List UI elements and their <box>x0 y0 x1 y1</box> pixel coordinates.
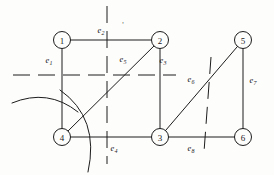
edge-label-subscript-e7: 7 <box>253 80 256 86</box>
graph-node-label-2: 2 <box>158 36 163 45</box>
graph-edge-e5 <box>68 46 154 131</box>
cut-line-layer <box>13 6 211 164</box>
edge-label-e1: e1 <box>46 56 53 65</box>
node-layer <box>54 32 252 146</box>
edge-label-e7: e7 <box>250 76 257 85</box>
edge-label-e5: e5 <box>120 55 127 64</box>
graph-node-label-6: 6 <box>241 133 246 142</box>
edge-label-e6: e6 <box>188 75 195 84</box>
cut-slanted <box>204 57 211 152</box>
arc-upper <box>12 97 78 112</box>
graph-node-label-4: 4 <box>60 133 65 142</box>
edge-label-e3: e3 <box>160 56 167 65</box>
edge-label-subscript-e1: 1 <box>49 60 52 66</box>
edge-layer <box>62 40 243 137</box>
edge-label-e8: e8 <box>188 144 195 153</box>
graph-edge-e6 <box>166 46 238 130</box>
graph-figure: 125436e1e2e3e4e5e6e7e8' <box>0 0 274 175</box>
edge-label-e4: e4 <box>111 144 118 153</box>
edge-label-subscript-e5: 5 <box>123 59 126 65</box>
edge-label-subscript-e6: 6 <box>191 79 194 85</box>
graph-node-label-3: 3 <box>158 133 163 142</box>
edge-label-subscript-e3: 3 <box>163 60 166 66</box>
graph-node-label-5: 5 <box>241 36 246 45</box>
edge-label-subscript-e4: 4 <box>114 148 117 154</box>
edge-label-subscript-e8: 8 <box>191 148 194 154</box>
edge-label-subscript-e2: 2 <box>101 30 104 36</box>
edge-label-e2: e2 <box>98 26 105 35</box>
cut-arc-layer <box>12 90 91 172</box>
graph-canvas <box>0 0 274 175</box>
stray-apostrophe-mark: ' <box>122 22 123 30</box>
graph-node-label-1: 1 <box>60 36 65 45</box>
